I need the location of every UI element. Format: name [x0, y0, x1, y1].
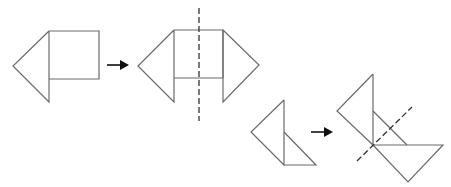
symmetry-axis-dashed-line: [357, 107, 412, 161]
step1-after: [138, 8, 259, 121]
step2-after-edge-2: [373, 145, 443, 182]
step2-after-edge-0: [337, 74, 373, 145]
step2-before-edge-0: [251, 100, 284, 165]
step2-before-edge-1: [284, 132, 316, 165]
arrow-right-icon: [311, 127, 333, 137]
diagram-layer: [13, 8, 443, 182]
step2-before: [251, 100, 316, 165]
step2-after: [337, 74, 443, 182]
arrow-right-icon: [107, 60, 129, 70]
step1-after-edge-0: [138, 30, 174, 102]
step1-before-edge-0: [13, 31, 49, 102]
step1-before: [13, 31, 99, 102]
arrow-head: [324, 127, 333, 137]
step1-after-edge-2: [223, 30, 259, 102]
arrow-head: [120, 60, 129, 70]
diagram-canvas: [0, 0, 451, 187]
step1-before-edge-1: [49, 31, 99, 79]
